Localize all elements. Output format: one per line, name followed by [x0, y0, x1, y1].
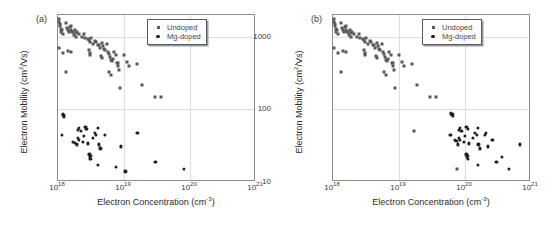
x-tick-label: 1021: [247, 183, 263, 192]
data-point-mg-doped: [479, 147, 482, 150]
data-point-mg-doped: [91, 137, 94, 140]
legend-item-undoped[interactable]: Undoped: [152, 23, 201, 32]
data-point-undoped: [416, 84, 419, 87]
data-point-mg-doped: [476, 126, 479, 129]
data-point-undoped: [154, 96, 157, 99]
data-point-undoped: [100, 41, 103, 44]
data-point-undoped: [336, 32, 339, 35]
data-point-mg-doped: [466, 157, 469, 160]
gridline-horizontal: [333, 109, 529, 110]
data-point-mg-doped: [518, 143, 521, 146]
data-point-undoped: [411, 63, 414, 66]
data-point-mg-doped: [483, 134, 486, 137]
data-point-undoped: [111, 57, 114, 60]
legend-item-mg-doped[interactable]: Mg-doped: [427, 32, 476, 41]
data-point-undoped: [389, 54, 392, 57]
x-tick-label: 1020: [181, 183, 197, 192]
legend-item-undoped[interactable]: Undoped: [427, 23, 476, 32]
data-point-mg-doped: [154, 160, 157, 163]
data-point-mg-doped: [119, 145, 122, 148]
data-point-mg-doped: [471, 137, 474, 140]
data-point-undoped: [434, 96, 437, 99]
y-tick-label: 1000: [253, 31, 271, 40]
panel-label: (a): [36, 14, 47, 24]
data-point-mg-doped: [79, 130, 82, 133]
data-point-mg-doped: [463, 134, 466, 137]
square-marker-icon: [427, 26, 439, 29]
data-point-mg-doped: [460, 130, 463, 133]
data-point-mg-doped: [456, 143, 459, 146]
circle-marker-icon: [427, 35, 439, 38]
data-point-undoped: [125, 61, 128, 64]
data-point-undoped: [67, 31, 70, 34]
data-point-mg-doped: [60, 133, 63, 136]
data-point-mg-doped: [89, 157, 92, 160]
data-point-mg-doped: [182, 168, 185, 171]
data-point-mg-doped: [486, 145, 489, 148]
data-point-undoped: [384, 73, 387, 76]
data-point-undoped: [376, 57, 379, 60]
data-point-mg-doped: [114, 166, 117, 169]
data-point-undoped: [83, 33, 86, 36]
data-point-mg-doped: [467, 154, 470, 157]
data-point-undoped: [413, 130, 416, 133]
legend-label: Mg-doped: [167, 32, 201, 41]
data-point-mg-doped: [85, 127, 88, 130]
data-point-mg-doped: [485, 131, 488, 134]
data-point-undoped: [386, 60, 389, 63]
data-point-undoped: [128, 64, 131, 67]
data-point-mg-doped: [475, 134, 478, 137]
data-point-undoped: [336, 28, 339, 31]
data-point-undoped: [58, 47, 61, 50]
gridline-vertical: [124, 15, 125, 180]
data-point-undoped: [109, 73, 112, 76]
data-point-undoped: [61, 32, 64, 35]
data-point-undoped: [400, 61, 403, 64]
legend: UndopedMg-doped: [147, 19, 207, 45]
data-point-mg-doped: [89, 154, 92, 157]
data-point-undoped: [342, 31, 345, 34]
data-point-mg-doped: [76, 143, 79, 146]
circle-marker-icon: [152, 35, 164, 38]
data-point-undoped: [392, 64, 395, 67]
data-point-undoped: [350, 36, 353, 39]
figure-container: (a)1018101910201021101001000Electron Con…: [0, 0, 550, 229]
data-point-undoped: [455, 168, 458, 171]
data-point-mg-doped: [466, 127, 469, 130]
data-point-mg-doped: [82, 140, 85, 143]
panel-a: (a)1018101910201021101001000Electron Con…: [0, 0, 275, 229]
data-point-undoped: [344, 51, 347, 54]
data-point-mg-doped: [467, 142, 470, 145]
data-point-undoped: [345, 24, 348, 27]
data-point-mg-doped: [136, 131, 139, 134]
data-point-mg-doped: [495, 160, 498, 163]
data-point-mg-doped: [124, 170, 127, 173]
data-point-undoped: [105, 42, 108, 45]
data-point-undoped: [333, 47, 336, 50]
data-point-undoped: [118, 68, 121, 71]
legend-item-mg-doped[interactable]: Mg-doped: [152, 32, 201, 41]
data-point-undoped: [403, 64, 406, 67]
x-tick-label: 1019: [115, 183, 131, 192]
gridline-vertical: [399, 15, 400, 180]
data-point-undoped: [64, 70, 67, 73]
x-axis-label: Electron Concentration (cm-3): [57, 197, 255, 207]
data-point-mg-doped: [86, 142, 89, 145]
gridline-horizontal: [58, 109, 254, 110]
data-point-undoped: [393, 68, 396, 71]
y-tick-label: 100: [258, 104, 271, 113]
legend: UndopedMg-doped: [422, 19, 482, 45]
data-point-mg-doped: [78, 138, 81, 141]
data-point-mg-doped: [507, 168, 510, 171]
x-tick-label: 1018: [49, 183, 65, 192]
data-point-undoped: [62, 52, 65, 55]
data-point-undoped: [364, 54, 367, 57]
data-point-mg-doped: [63, 113, 66, 116]
data-point-mg-doped: [96, 126, 99, 129]
y-axis-label: Electron Mobility (cm2/Vs): [294, 22, 304, 182]
y-axis-label: Electron Mobility (cm2/Vs): [19, 22, 29, 182]
data-point-undoped: [380, 42, 383, 45]
data-point-mg-doped: [104, 134, 107, 137]
square-marker-icon: [152, 26, 164, 29]
data-point-undoped: [398, 54, 401, 57]
